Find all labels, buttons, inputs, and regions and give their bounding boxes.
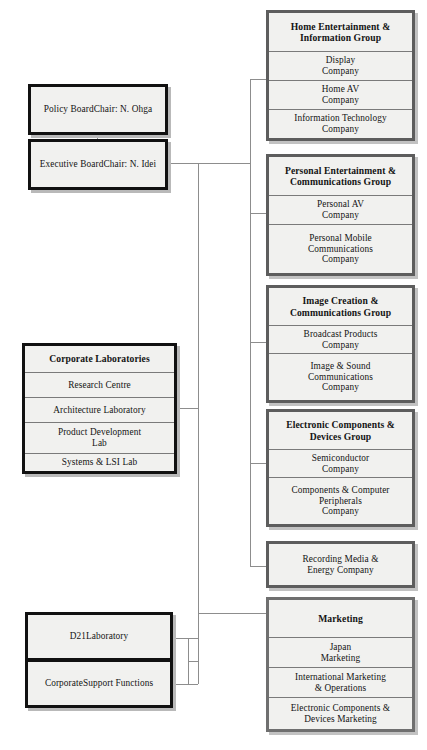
group-header: Image Creation &Communications Group: [269, 288, 412, 326]
marketing-unit: JapanMarketing: [269, 638, 412, 668]
connector-stub-image-creation: [250, 342, 266, 343]
group-box-home-entertainment[interactable]: Home Entertainment &Information Group Di…: [266, 10, 415, 141]
group-company: Personal MobileCommunicationsCompany: [269, 225, 412, 273]
group-box-electronic-components[interactable]: Electronic Components &Devices Group Sem…: [266, 409, 415, 527]
group-header: Personal Entertainment &Communications G…: [269, 157, 412, 196]
policy-board-text: Policy Board: [44, 104, 94, 115]
connector-corporate-laboratories: [177, 408, 199, 409]
corporate-support-functions-cell: Corporate Support Functions: [28, 662, 170, 705]
corporate-support-functions-box[interactable]: Corporate Support Functions: [25, 659, 173, 708]
d21-laboratory-line2: Laboratory: [86, 631, 128, 642]
marketing-unit: Electronic Components &Devices Marketing: [269, 698, 412, 729]
connector-d21-stub: [173, 638, 198, 639]
group-company: SemiconductorCompany: [269, 450, 412, 478]
corporate-laboratories-unit: Systems & LSI Lab: [25, 454, 174, 471]
marketing-box[interactable]: Marketing JapanMarketing International M…: [266, 597, 415, 732]
corporate-laboratories-unit: Research Centre: [25, 373, 174, 398]
group-company: DisplayCompany: [269, 52, 412, 81]
connector-main-trunk: [198, 163, 199, 684]
policy-board-chair: Chair: N. Ohga: [94, 104, 152, 115]
connector-executive-horizontal: [170, 163, 251, 164]
corporate-laboratories-header: Corporate Laboratories: [25, 346, 174, 373]
group-company: Broadcast ProductsCompany: [269, 326, 412, 354]
marketing-header: Marketing: [269, 600, 412, 638]
policy-board-cell: Policy Board Chair: N. Ohga: [31, 87, 165, 132]
recording-media-box[interactable]: Recording Media &Energy Company: [266, 541, 415, 588]
connector-stub-personal-entertainment: [250, 213, 266, 214]
group-header: Electronic Components &Devices Group: [269, 412, 412, 450]
org-chart: Policy Board Chair: N. Ohga Executive Bo…: [0, 0, 427, 750]
connector-bracket-to-trunk: [188, 661, 199, 662]
connector-marketing: [198, 613, 266, 614]
group-company: Information TechnologyCompany: [269, 110, 412, 138]
group-company: Components & ComputerPeripheralsCompany: [269, 478, 412, 524]
group-box-personal-entertainment[interactable]: Personal Entertainment &Communications G…: [266, 154, 415, 276]
connector-support-functions-stub: [173, 684, 198, 685]
corporate-laboratories-box[interactable]: Corporate Laboratories Research Centre A…: [22, 343, 177, 474]
connector-stub-recording-media: [250, 566, 266, 567]
d21-laboratory-box[interactable]: D21 Laboratory: [25, 612, 173, 661]
connector-group-trunk: [250, 79, 251, 566]
group-header: Home Entertainment &Information Group: [269, 13, 412, 52]
recording-media-cell: Recording Media &Energy Company: [269, 544, 412, 585]
executive-board-chair: Chair: N. Idei: [103, 159, 156, 170]
corporate-laboratories-unit: Architecture Laboratory: [25, 398, 174, 423]
support-functions-line2: Support Functions: [83, 678, 153, 689]
connector-stub-electronic-components: [250, 463, 266, 464]
group-box-image-creation[interactable]: Image Creation &Communications Group Bro…: [266, 285, 415, 403]
d21-laboratory-cell: D21 Laboratory: [28, 615, 170, 658]
group-company: Home AVCompany: [269, 81, 412, 110]
d21-laboratory-line1: D21: [70, 631, 86, 642]
connector-stub-home-entertainment: [250, 79, 266, 80]
executive-board-text: Executive Board: [40, 159, 104, 170]
marketing-unit: International Marketing& Operations: [269, 668, 412, 698]
policy-board-box[interactable]: Policy Board Chair: N. Ohga: [28, 84, 168, 135]
executive-board-box[interactable]: Executive Board Chair: N. Idei: [28, 139, 168, 190]
group-company: Personal AVCompany: [269, 196, 412, 225]
support-functions-line1: Corporate: [45, 678, 83, 689]
corporate-laboratories-unit: Product DevelopmentLab: [25, 423, 174, 454]
group-company: Image & SoundCommunicationsCompany: [269, 354, 412, 400]
executive-board-cell: Executive Board Chair: N. Idei: [31, 142, 165, 187]
